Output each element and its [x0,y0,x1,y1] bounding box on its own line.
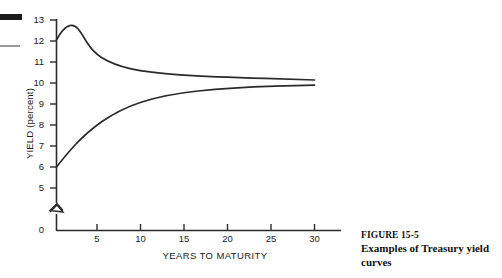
chart-plot-area: 13 12 11 10 9 8 7 6 5 0 5 10 15 20 25 30… [0,0,350,250]
x-tick-label-15: 15 [173,233,195,244]
series-inverted-yield-curve [57,25,315,80]
y-tick-marks [50,20,57,188]
y-axis-break-symbol [50,204,63,213]
figure-container: 13 12 11 10 9 8 7 6 5 0 5 10 15 20 25 30… [0,0,502,278]
x-tick-label-30: 30 [304,233,326,244]
x-tick-label-10: 10 [130,233,152,244]
x-tick-label-5: 5 [86,233,108,244]
y-tick-label-13: 13 [22,14,44,25]
y-tick-label-5: 5 [22,182,44,193]
figure-caption-title: Examples of Treasury yield curves [361,242,501,269]
x-tick-marks [97,224,315,231]
y-tick-label-12: 12 [22,35,44,46]
series-normal-yield-curve [57,85,315,167]
y-tick-label-0: 0 [22,224,44,235]
x-axis-title: YEARS TO MATURITY [110,250,320,261]
y-axis-title: YIELD (percent) [24,64,35,184]
x-tick-label-25: 25 [260,233,282,244]
figure-caption: FIGURE 15-5 Examples of Treasury yield c… [361,229,501,269]
figure-caption-number: FIGURE 15-5 [361,229,501,241]
x-tick-label-20: 20 [217,233,239,244]
yield-curve-chart [0,0,350,250]
